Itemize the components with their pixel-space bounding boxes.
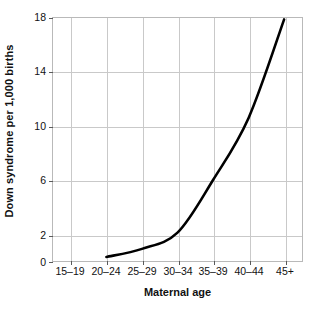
tick-mark-y-0	[49, 262, 53, 263]
plot-area	[52, 17, 303, 262]
y-tick-label-18: 18	[22, 11, 50, 23]
y-tick-label-2: 2	[22, 229, 50, 241]
data-series-curve-svg	[53, 18, 302, 261]
y-tick-label-14: 14	[22, 65, 50, 77]
y-tick-label-10: 10	[22, 120, 50, 132]
x-tick-label-40-44: 40–44	[234, 265, 263, 277]
x-axis-tick-labels: 15–19 20–24 25–29 30–34 35–39 40–44 45+	[52, 265, 303, 281]
x-tick-label-20-24: 20–24	[91, 265, 120, 277]
y-axis-tick-labels: 18 14 10 6 2 0	[22, 0, 50, 311]
y-axis-title: Down syndrome per 1,000 births	[0, 0, 18, 262]
x-tick-label-45-plus: 45+	[276, 265, 294, 277]
y-axis-title-label: Down syndrome per 1,000 births	[3, 45, 15, 218]
x-tick-label-35-39: 35–39	[198, 265, 227, 277]
x-tick-label-15-19: 15–19	[55, 265, 84, 277]
x-axis-title: Maternal age	[52, 286, 303, 298]
x-tick-label-30-34: 30–34	[163, 265, 192, 277]
y-tick-label-0: 0	[22, 256, 50, 268]
series-line-down-syndrome	[106, 19, 284, 257]
x-tick-label-25-29: 25–29	[127, 265, 156, 277]
down-syndrome-maternal-age-chart: Down syndrome per 1,000 births 18 14 10 …	[0, 0, 320, 311]
y-tick-label-6: 6	[22, 174, 50, 186]
